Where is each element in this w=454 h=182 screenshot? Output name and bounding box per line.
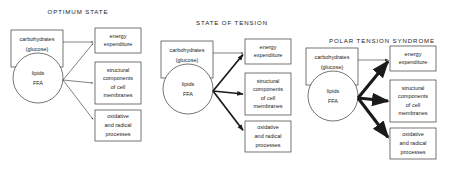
energy-expenditure-label-line-2: expenditure bbox=[399, 59, 428, 65]
structural-components-label-line-4: membranes bbox=[103, 92, 132, 98]
arrow-lipids-to-oxidative bbox=[213, 91, 243, 130]
energy-expenditure-label-line-2: expenditure bbox=[254, 52, 283, 58]
carbohydrates-label-line-1: carbohydrates bbox=[20, 36, 55, 42]
oxidative-processes-label-line-2: and radical bbox=[400, 140, 427, 146]
structural-components-label-line-3: of cell bbox=[406, 102, 420, 108]
arrow-lipids-to-oxidative bbox=[63, 80, 93, 119]
lipids-ffa-label-line-2: FFA bbox=[33, 80, 43, 86]
oxidative-processes-label-line-3: processes bbox=[255, 142, 280, 148]
lipids-ffa-label-line-1: lipids bbox=[327, 88, 340, 94]
lipids-ffa-label-line-1: lipids bbox=[32, 70, 45, 76]
energy-expenditure-label-line-1: energy bbox=[405, 51, 422, 57]
lipids-ffa-label-line-1: lipids bbox=[182, 81, 195, 87]
arrow-lipids-to-structural bbox=[358, 98, 388, 101]
arrow-lipids-to-energy bbox=[63, 44, 93, 81]
carbohydrates-label-line-2: (glucose) bbox=[26, 46, 49, 52]
oxidative-processes-label-line-2: and radical bbox=[255, 133, 282, 139]
oxidative-processes-label-line-1: oxidative bbox=[107, 113, 129, 119]
oxidative-processes-label-line-1: oxidative bbox=[257, 124, 279, 130]
energy-expenditure-label-line-1: energy bbox=[260, 44, 277, 50]
oxidative-processes-label-line-1: oxidative bbox=[402, 131, 424, 137]
panel-polar-tension-syndrome: carbohydrates(glucose)lipidsFFAenergyexp… bbox=[306, 37, 436, 159]
structural-components-label-line-4: membranes bbox=[253, 103, 282, 109]
panel-title-optimum-state: OPTIMUM STATE bbox=[48, 8, 109, 15]
arrow-lipids-to-structural bbox=[63, 80, 93, 83]
structural-components-label-line-1: structural bbox=[107, 67, 130, 73]
panel-title-polar-tension-syndrome: POLAR TENSION SYNDROME bbox=[329, 37, 435, 44]
structural-components-label-line-2: components bbox=[103, 75, 133, 81]
arrow-lipids-to-energy bbox=[358, 62, 388, 99]
panel-title-state-of-tension: STATE OF TENSION bbox=[196, 19, 268, 26]
structural-components-label-line-1: structural bbox=[257, 78, 280, 84]
three-panel-metabolism-diagram: carbohydrates(glucose)lipidsFFAenergyexp… bbox=[0, 0, 454, 182]
structural-components-label-line-3: of cell bbox=[111, 84, 125, 90]
lipids-ffa-label-line-2: FFA bbox=[183, 91, 193, 97]
carbohydrates-label-line-1: carbohydrates bbox=[170, 47, 205, 53]
arrow-lipids-to-structural bbox=[213, 91, 243, 94]
panel-state-of-tension: carbohydrates(glucose)lipidsFFAenergyexp… bbox=[161, 19, 291, 152]
carbohydrates-label-line-1: carbohydrates bbox=[315, 54, 350, 60]
structural-components-label-line-1: structural bbox=[402, 85, 425, 91]
diagram-canvas: carbohydrates(glucose)lipidsFFAenergyexp… bbox=[0, 0, 454, 182]
oxidative-processes-label-line-3: processes bbox=[105, 131, 130, 137]
oxidative-processes-label: oxidativeand radicalprocesses bbox=[255, 124, 282, 147]
lipids-ffa-circle bbox=[163, 64, 213, 114]
arrow-lipids-to-oxidative bbox=[358, 98, 388, 137]
arrow-lipids-to-energy bbox=[213, 55, 243, 92]
lipids-ffa-label-line-2: FFA bbox=[328, 98, 338, 104]
lipids-ffa-circle bbox=[13, 53, 63, 103]
energy-expenditure-label-line-2: expenditure bbox=[104, 41, 133, 47]
structural-components-label-line-2: components bbox=[253, 86, 283, 92]
oxidative-processes-label: oxidativeand radicalprocesses bbox=[400, 131, 427, 154]
oxidative-processes-label-line-2: and radical bbox=[105, 122, 132, 128]
structural-components-label-line-3: of cell bbox=[261, 95, 275, 101]
oxidative-processes-label: oxidativeand radicalprocesses bbox=[105, 113, 132, 136]
lipids-ffa-circle bbox=[308, 71, 358, 121]
panel-optimum-state: carbohydrates(glucose)lipidsFFAenergyexp… bbox=[11, 8, 141, 141]
structural-components-label-line-4: membranes bbox=[398, 110, 427, 116]
carbohydrates-label-line-2: (glucose) bbox=[176, 57, 199, 63]
structural-components-label-line-2: components bbox=[398, 93, 428, 99]
energy-expenditure-label-line-1: energy bbox=[110, 33, 127, 39]
carbohydrates-label-line-2: (glucose) bbox=[321, 64, 344, 70]
oxidative-processes-label-line-3: processes bbox=[400, 149, 425, 155]
